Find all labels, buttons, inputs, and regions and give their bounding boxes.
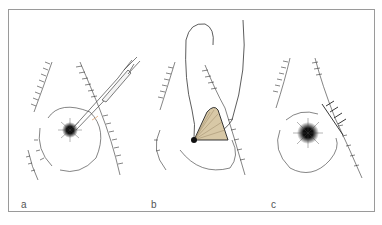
panel-label-c: c — [271, 199, 276, 210]
panel-label-b: b — [151, 199, 157, 210]
panel-c — [273, 58, 362, 178]
contour-hatching-left — [26, 62, 52, 180]
wound-flap — [194, 107, 228, 140]
panel-a — [26, 57, 140, 180]
panel-label-a: a — [21, 199, 27, 210]
illustration — [0, 0, 382, 225]
sutures-icon — [322, 101, 346, 135]
scalpel-icon — [73, 57, 140, 130]
panel-b — [154, 20, 245, 175]
contour-hatching-right — [76, 62, 123, 175]
